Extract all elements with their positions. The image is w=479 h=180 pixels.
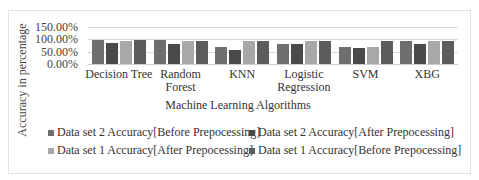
x-tick-label-line: Regression	[277, 81, 330, 94]
bar	[319, 41, 331, 64]
legend-item: Data set 2 Accuracy[After Prepocessing]	[249, 125, 454, 140]
x-tick-label-line: Forest	[160, 81, 201, 94]
bar	[353, 48, 365, 64]
x-tick-label-line: Decision Tree	[85, 68, 152, 81]
x-tick-label: SVM	[352, 68, 378, 81]
bar	[291, 44, 303, 64]
gridline	[88, 27, 458, 28]
x-tick-label: XBG	[414, 68, 439, 81]
bar	[428, 41, 440, 64]
legend-item: Data set 1 Accuracy[Before Prepocessing]	[249, 143, 461, 158]
y-tick-label: 100.00%	[0, 33, 78, 45]
y-tick-label: 50.00%	[0, 46, 78, 58]
bar	[168, 44, 180, 64]
bar	[414, 44, 426, 64]
bar	[305, 41, 317, 64]
y-tick-label: 150.00%	[0, 21, 78, 33]
x-tick-label: RandomForest	[160, 68, 201, 94]
legend-swatch-icon	[48, 148, 54, 154]
plot-area	[88, 27, 458, 64]
legend-item: Data set 1 Accuracy[After Prepocessing]	[48, 143, 253, 158]
x-axis-title: Machine Learning Algorithms	[165, 98, 310, 113]
bar	[134, 40, 146, 64]
bar	[277, 44, 289, 64]
legend-label: Data set 2 Accuracy[After Prepocessing]	[258, 125, 454, 140]
x-tick-label-line: SVM	[352, 68, 378, 81]
bar	[196, 41, 208, 64]
legend-label: Data set 1 Accuracy[After Prepocessing]	[57, 143, 253, 158]
bar	[92, 40, 104, 64]
bar	[381, 41, 393, 64]
y-tick-label: 0.00%	[0, 58, 78, 70]
bar	[367, 47, 379, 64]
bar	[154, 40, 166, 64]
bar	[215, 47, 227, 64]
bar	[400, 41, 412, 64]
legend-label: Data set 2 Accuracy[Before Prepocessing]	[57, 125, 260, 140]
legend-swatch-icon	[48, 130, 54, 136]
x-tick-label: LogisticRegression	[277, 68, 330, 94]
x-tick-label: KNN	[229, 68, 255, 81]
bar	[442, 41, 454, 64]
bar	[257, 41, 269, 64]
legend-swatch-icon	[249, 148, 255, 154]
x-tick-label-line: KNN	[229, 68, 255, 81]
bar	[243, 41, 255, 64]
legend-item: Data set 2 Accuracy[Before Prepocessing]	[48, 125, 260, 140]
bar	[229, 50, 241, 64]
bar	[182, 41, 194, 64]
bar	[339, 47, 351, 64]
gridline	[88, 64, 458, 65]
legend-label: Data set 1 Accuracy[Before Prepocessing]	[258, 143, 461, 158]
legend-swatch-icon	[249, 130, 255, 136]
bar	[106, 43, 118, 64]
x-tick-label: Decision Tree	[85, 68, 152, 81]
bar	[120, 41, 132, 64]
x-tick-label-line: XBG	[414, 68, 439, 81]
